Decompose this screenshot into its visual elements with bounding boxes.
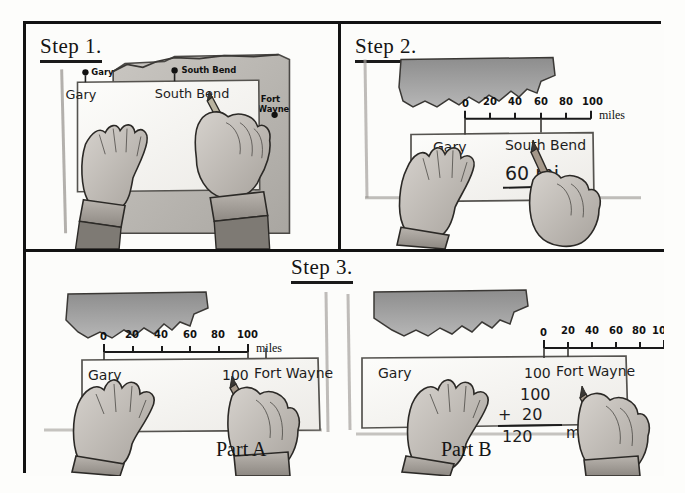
figure-frame: Step 1.: [23, 21, 661, 473]
part-a-group: 0 20 40 60 80 100 miles Gary 100 Fort Wa…: [44, 292, 333, 476]
sum-rule: [498, 425, 562, 426]
pencil-right-hand-b: [578, 386, 649, 476]
addend-bottom: 20: [522, 405, 542, 424]
plus-sign: +: [498, 405, 511, 424]
ruler-b-tick-0: 0: [540, 327, 547, 338]
map-silhouette-b: [374, 290, 528, 336]
map-label-fort-wayne-line2: Wayne: [258, 104, 290, 114]
part-a-label: Part A: [216, 438, 267, 461]
ruler-b-tick-60: 60: [609, 325, 623, 336]
strip-label-south-bend: South Bend: [505, 137, 586, 153]
step-3-drawing: 0 20 40 60 80 100 miles Gary 100 Fort Wa…: [26, 252, 664, 476]
panel-step-2: Step 2. 0 20 40 60 80 100: [341, 24, 664, 252]
strip-b-label-fort-wayne: Fort Wayne: [556, 363, 635, 379]
panel-step-1: Step 1.: [26, 24, 341, 252]
ruler-a-tick-40: 40: [154, 329, 168, 340]
scale-ruler-b: 0 20 40 60 80 100: [540, 325, 664, 348]
strip-label-south-bend: South Bend: [155, 86, 230, 101]
step-1-scene: Gary South Bend Fort Wayne Gary South Be…: [26, 24, 338, 249]
map-dot-south-bend: [171, 67, 177, 73]
scale-ruler-a: 0 20 40 60 80 100 miles: [100, 329, 282, 355]
ruler-a-tick-60: 60: [183, 329, 197, 340]
addend-top: 100: [520, 385, 551, 404]
step-1-drawing: Gary South Bend Fort Wayne Gary South Be…: [26, 24, 338, 249]
ruler-b-tick-80: 80: [632, 325, 646, 336]
strip-b-label-gary: Gary: [378, 365, 411, 381]
ruler-b-tick-20: 20: [561, 325, 575, 336]
panel-step-3: Step 3. 0 20 40: [26, 252, 664, 476]
ruler-tick-40: 40: [508, 96, 522, 107]
ruler-tick-80: 80: [559, 96, 573, 107]
ruler-tick-100: 100: [582, 96, 603, 107]
scale-ruler: 0 20 40 60 80 100 miles: [462, 96, 625, 122]
ruler-a-tick-0: 0: [100, 331, 107, 342]
step-2-scene: 0 20 40 60 80 100 miles Gary South Bend …: [341, 24, 664, 249]
step-3-scene: 0 20 40 60 80 100 miles Gary 100 Fort Wa…: [26, 252, 664, 476]
map-dot-gary: [82, 69, 88, 75]
map-silhouette: [399, 58, 555, 107]
map-label-gary: Gary: [91, 67, 114, 77]
part-b-label: Part B: [441, 438, 492, 461]
ruler-b-tick-100: 100: [652, 325, 664, 336]
ruler-a-unit-label: miles: [256, 341, 282, 355]
flat-left-hand-a: [72, 380, 154, 476]
step-2-drawing: 0 20 40 60 80 100 miles Gary South Bend …: [341, 24, 664, 249]
ruler-unit-label: miles: [599, 108, 625, 122]
ruler-tick-60: 60: [534, 96, 548, 107]
ruler-a-tick-80: 80: [211, 329, 225, 340]
strip-b-label-100: 100: [524, 365, 551, 381]
ruler-a-tick-20: 20: [125, 329, 139, 340]
part-b-group: 0 20 40 60 80 100 Gary 100 Fort Wayne: [348, 290, 664, 476]
map-label-south-bend: South Bend: [182, 65, 237, 75]
strip-a-label-fort-wayne: Fort Wayne: [254, 365, 333, 381]
ruler-tick-0: 0: [462, 98, 469, 109]
ruler-a-tick-100: 100: [237, 329, 258, 340]
strip-label-gary: Gary: [66, 87, 97, 102]
ruler-tick-20: 20: [483, 96, 497, 107]
sum-total: 120: [502, 427, 533, 446]
ruler-b-tick-40: 40: [585, 325, 599, 336]
map-label-fort-wayne-line1: Fort: [261, 94, 280, 104]
strip-a-label-100: 100: [222, 367, 249, 383]
